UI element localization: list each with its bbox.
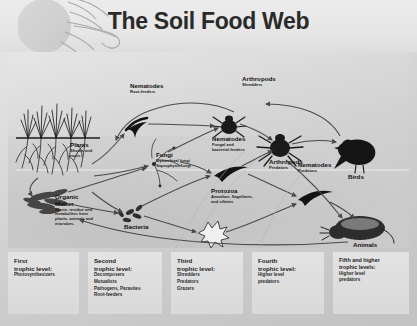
food-web-panel: Plants Shoots and roots Organic Matter W… bbox=[8, 52, 409, 248]
trophic-box-first: First trophic level: Photosynthesizers bbox=[8, 252, 79, 314]
label-protozoa: Protozoa Amoebae, flagellates, and cilia… bbox=[211, 188, 253, 204]
poster-header: The Soil Food Web bbox=[0, 0, 417, 52]
label-nematodes-predators: Nematodes Predators bbox=[298, 162, 331, 174]
label-plants: Plants Shoots and roots bbox=[70, 142, 92, 158]
trophic-box-fifth: Fifth and higher trophic levels: Higher … bbox=[333, 252, 409, 314]
label-arthropods-shredders: Arthropods Shredders bbox=[242, 76, 276, 88]
trophic-levels-row: First trophic level: Photosynthesizers S… bbox=[8, 252, 409, 318]
label-animals: Animals bbox=[353, 242, 377, 249]
label-nematodes-root-feeders: Nematodes Root-feeders bbox=[130, 83, 163, 95]
label-bacteria: Bacteria bbox=[124, 224, 148, 231]
page-title: The Soil Food Web bbox=[0, 8, 417, 35]
trophic-box-fourth: Fourth trophic level: Higher level preda… bbox=[252, 252, 324, 314]
soil-food-web-poster: The Soil Food Web bbox=[0, 0, 417, 326]
label-birds: Birds bbox=[348, 174, 364, 181]
label-organic-matter: Organic Matter Waste, residue and metabo… bbox=[55, 194, 93, 226]
trophic-box-second: Second trophic level: Decomposers Mutual… bbox=[88, 252, 162, 314]
label-nematodes-fungal-bacterial: Nematodes Fungal and bacterial-feeders bbox=[212, 136, 245, 152]
label-fungi: Fungi Mycorrhizal fungi Saprophytic fung… bbox=[156, 152, 191, 168]
trophic-box-third: Third trophic level: Shredders Predators… bbox=[171, 252, 243, 314]
label-arthropods-predators: Arthropods Predators bbox=[269, 159, 303, 171]
